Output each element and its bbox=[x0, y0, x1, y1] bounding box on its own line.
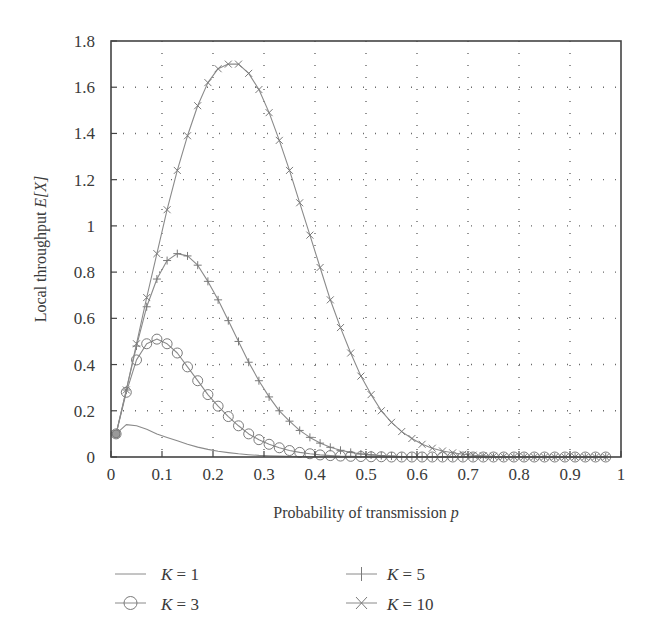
plus-marker-icon bbox=[235, 337, 243, 345]
legend-item-k1: K = 1 bbox=[115, 565, 199, 584]
x-tick-label: 0 bbox=[107, 465, 116, 484]
y-tick-label: 0.8 bbox=[74, 263, 95, 282]
x-marker-icon bbox=[408, 435, 415, 442]
y-tick-label: 1.6 bbox=[74, 78, 95, 97]
x-tick-label: 1 bbox=[617, 465, 626, 484]
x-marker-icon bbox=[296, 199, 303, 206]
x-marker-icon bbox=[327, 296, 334, 303]
x-tick-label: 0.9 bbox=[559, 465, 580, 484]
legend-item-k5: K = 5 bbox=[346, 565, 425, 584]
y-tick-label: 1.8 bbox=[74, 32, 95, 51]
x-marker-icon bbox=[317, 264, 324, 271]
y-tick-label: 1 bbox=[87, 217, 96, 236]
x-tick-label: 0.4 bbox=[304, 465, 326, 484]
x-marker-icon bbox=[174, 167, 181, 174]
x-marker-icon bbox=[204, 79, 211, 86]
x-tick-label: 0.8 bbox=[508, 465, 529, 484]
plot-frame bbox=[111, 41, 621, 457]
axis-ticks bbox=[111, 41, 621, 457]
legend: K = 1 K = 5 K = 3 K = 10 bbox=[115, 565, 433, 614]
series-k10 bbox=[113, 61, 610, 461]
x-tick-label: 0.6 bbox=[406, 465, 427, 484]
x-tick-label: 0.7 bbox=[457, 465, 479, 484]
svg-text:K = 10: K = 10 bbox=[386, 595, 433, 614]
x-marker-icon bbox=[337, 324, 344, 331]
x-marker-icon bbox=[388, 419, 395, 426]
y-tick-label: 0.6 bbox=[74, 309, 95, 328]
plus-marker-icon bbox=[337, 446, 345, 454]
y-axis-title: Local throughput E[X] bbox=[32, 176, 50, 323]
x-marker-icon bbox=[286, 167, 293, 174]
plus-marker-icon bbox=[153, 275, 161, 283]
y-tick-label: 0 bbox=[87, 448, 96, 467]
x-tick-label: 0.3 bbox=[253, 465, 274, 484]
plus-marker-icon bbox=[316, 439, 324, 447]
line-chart: 00.10.20.30.40.50.60.70.80.91 00.20.40.6… bbox=[0, 0, 655, 619]
x-marker-icon bbox=[429, 445, 436, 452]
x-marker-icon bbox=[276, 137, 283, 144]
x-marker-icon bbox=[255, 86, 262, 93]
series-k3 bbox=[111, 334, 611, 462]
x-axis-title: Probability of transmission p bbox=[273, 504, 458, 522]
legend-item-k3: K = 3 bbox=[115, 595, 199, 614]
svg-text:K = 1: K = 1 bbox=[160, 565, 199, 584]
plus-marker-icon bbox=[347, 448, 355, 456]
x-marker-icon bbox=[378, 407, 385, 414]
plus-marker-icon bbox=[163, 257, 171, 265]
x-marker-icon bbox=[347, 350, 354, 357]
svg-text:K = 3: K = 3 bbox=[160, 595, 199, 614]
plus-marker-icon bbox=[214, 296, 222, 304]
plus-marker-icon bbox=[173, 250, 181, 258]
data-series bbox=[111, 61, 611, 462]
x-axis-tick-labels: 00.10.20.30.40.50.60.70.80.91 bbox=[107, 465, 626, 484]
y-tick-label: 0.2 bbox=[74, 402, 95, 421]
x-tick-label: 0.1 bbox=[151, 465, 172, 484]
x-tick-label: 0.2 bbox=[202, 465, 223, 484]
x-marker-icon bbox=[215, 65, 222, 72]
plus-marker-icon bbox=[306, 433, 314, 441]
x-marker-icon bbox=[306, 232, 313, 239]
origin-marker bbox=[112, 430, 120, 438]
series-k5 bbox=[112, 250, 610, 461]
plus-marker-icon bbox=[245, 358, 253, 366]
y-tick-label: 0.4 bbox=[74, 356, 96, 375]
x-marker-icon bbox=[184, 132, 191, 139]
x-marker-icon bbox=[368, 391, 375, 398]
x-marker-icon bbox=[194, 102, 201, 109]
x-marker-icon bbox=[245, 70, 252, 77]
svg-text:K = 5: K = 5 bbox=[386, 565, 425, 584]
plus-marker-icon bbox=[265, 393, 273, 401]
plus-marker-icon bbox=[204, 277, 212, 285]
y-tick-label: 1.4 bbox=[74, 124, 96, 143]
x-marker-icon bbox=[419, 441, 426, 448]
y-axis-tick-labels: 00.20.40.60.811.21.41.61.8 bbox=[74, 32, 96, 467]
x-marker-icon bbox=[357, 373, 364, 380]
x-marker-icon bbox=[266, 109, 273, 116]
plus-marker-icon bbox=[255, 377, 263, 385]
plus-marker-icon bbox=[326, 443, 334, 451]
legend-item-k10: K = 10 bbox=[346, 595, 433, 614]
grid-lines bbox=[111, 41, 621, 457]
x-tick-label: 0.5 bbox=[355, 465, 376, 484]
y-tick-label: 1.2 bbox=[74, 171, 95, 190]
x-marker-icon bbox=[164, 206, 171, 213]
x-marker-icon bbox=[398, 428, 405, 435]
